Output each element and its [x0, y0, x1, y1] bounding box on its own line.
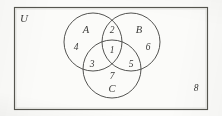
- universe-label: U: [20, 13, 28, 24]
- region-label-b-only: 6: [146, 43, 151, 53]
- venn-diagram-figure: U A B C 1 2 3 4 5 6 7 8: [0, 0, 222, 116]
- region-label-bc-not-a: 5: [129, 60, 134, 70]
- region-label-ac-not-b: 3: [90, 60, 95, 70]
- region-label-c-only: 7: [110, 72, 115, 82]
- set-label-a: A: [83, 25, 89, 36]
- region-label-abc: 1: [110, 46, 115, 56]
- region-label-outside: 8: [194, 84, 199, 94]
- set-label-b: B: [136, 25, 142, 36]
- venn-diagram-canvas: [0, 0, 222, 116]
- region-label-ab-not-c: 2: [110, 26, 115, 36]
- region-label-a-only: 4: [74, 43, 79, 53]
- set-label-c: C: [108, 84, 115, 95]
